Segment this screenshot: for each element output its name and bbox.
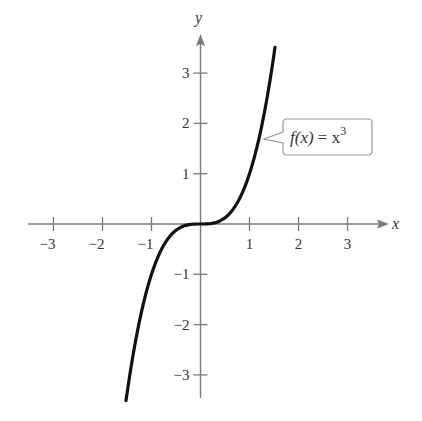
y-tick-label: −2 [174,317,190,333]
y-tick-label: 1 [182,166,190,182]
x-tick-label: −1 [138,236,154,252]
y-tick-label: −1 [174,266,190,282]
function-callout: f(x) = x3 [264,119,372,155]
callout-eq: = x [314,128,341,147]
callout-fx: f(x) [290,128,314,147]
y-tick-label: −3 [174,367,190,383]
y-axis-label: y [193,9,203,27]
axes [28,34,389,398]
x-tick-label: −2 [89,236,105,252]
x-tick-label: 2 [295,236,303,252]
y-tick-label: 3 [182,65,190,81]
y-tick-label: 2 [182,115,190,131]
callout-exponent: 3 [340,124,346,138]
x-tick-label: 3 [344,236,352,252]
x-tick-label: 1 [246,236,254,252]
function-graph: −3−2−1123−3−2−1123 f(x) = x3 x y [0,0,422,421]
x-tick-label: −3 [40,236,56,252]
x-axis-label: x [391,215,399,232]
callout-label: f(x) = x3 [290,124,346,147]
